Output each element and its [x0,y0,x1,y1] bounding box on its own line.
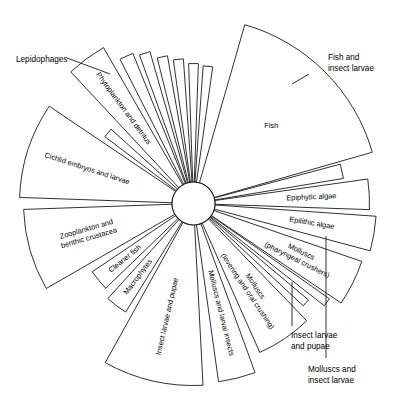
wedge-fish[interactable] [199,25,372,198]
external-label-insect-larvae-and-pupae-right: Insect larvaeand pupae [291,331,338,351]
external-label-lepidophages: Lepidophages [16,55,67,64]
external-label-fish-and-insect-larvae: Fish andinsect larvae [328,53,374,73]
wedge-label-fish: Fish [264,121,278,130]
radial-diagram-root: FishEpiphytic algaeEpilithic algaeMollus… [0,0,405,407]
external-label-molluscs-and-insect-larvae: Molluscs andinsect larvae [308,365,356,385]
hub-circle [172,182,215,225]
radial-wedge-diagram: FishEpiphytic algaeEpilithic algaeMollus… [0,0,405,407]
